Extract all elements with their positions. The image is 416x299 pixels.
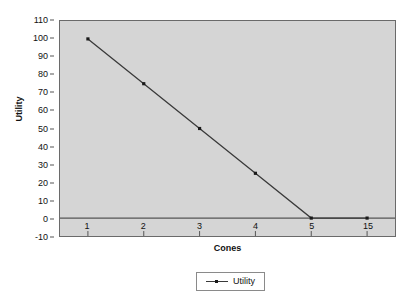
- y-axis-tick-mark: [50, 20, 54, 21]
- y-axis-tick-label: -10: [14, 233, 48, 242]
- y-axis-tick-label: 70: [14, 88, 48, 97]
- y-axis-tick-label: 50: [14, 124, 48, 133]
- x-axis-tick-label: 1: [72, 222, 102, 231]
- chart-legend: Utility: [196, 272, 265, 291]
- data-point-marker: [254, 172, 257, 175]
- y-axis-tick-label: 20: [14, 178, 48, 187]
- plot-area: [59, 20, 396, 237]
- series-utility-group: [86, 37, 368, 219]
- y-axis-tick-mark: [50, 164, 54, 165]
- x-axis-tick-label: 4: [241, 222, 271, 231]
- series-line-utility: [88, 39, 367, 218]
- legend-item-label: Utility: [233, 277, 255, 286]
- utility-vs-cones-chart: Utility 1101009080706050403020100-10 123…: [0, 0, 416, 299]
- y-axis-tick-mark: [50, 38, 54, 39]
- y-axis-tick-mark: [50, 200, 54, 201]
- x-axis-tick-label: 5: [297, 222, 327, 231]
- y-axis-tick-label: 110: [14, 16, 48, 25]
- x-axis-title: Cones: [59, 243, 396, 253]
- data-point-marker: [142, 82, 145, 85]
- data-point-marker: [86, 37, 89, 40]
- y-axis-tick-mark: [50, 110, 54, 111]
- y-axis-tick-mark: [50, 182, 54, 183]
- legend-item-utility: Utility: [206, 277, 255, 286]
- series-markers-utility: [86, 37, 368, 219]
- y-axis-tick-mark: [50, 237, 54, 238]
- y-axis-tick-label: 100: [14, 34, 48, 43]
- y-axis-tick-mark: [50, 92, 54, 93]
- y-axis-tick-mark: [50, 74, 54, 75]
- y-axis-tick-label: 30: [14, 160, 48, 169]
- data-point-marker: [310, 217, 313, 220]
- x-axis-tick-label: 3: [184, 222, 214, 231]
- x-axis-tick-label: 15: [353, 222, 383, 231]
- data-point-marker: [198, 127, 201, 130]
- y-axis-tick-label: 90: [14, 52, 48, 61]
- y-axis-tick-mark: [50, 218, 54, 219]
- y-axis-tick-mark: [50, 146, 54, 147]
- y-axis-tick-label: 80: [14, 70, 48, 79]
- y-axis-tick-mark: [50, 128, 54, 129]
- plot-canvas: [60, 21, 395, 236]
- y-axis-tick-labels: 1101009080706050403020100-10: [18, 20, 54, 237]
- y-axis-tick-label: 40: [14, 142, 48, 151]
- x-axis-tick-label: 2: [128, 222, 158, 231]
- y-axis-tick-label: 10: [14, 196, 48, 205]
- y-axis-tick-label: 0: [14, 214, 48, 223]
- y-axis-tick-mark: [50, 56, 54, 57]
- x-axis-tick-labels: 1234515: [59, 222, 396, 236]
- legend-line-marker-icon: [206, 277, 228, 286]
- data-point-marker: [365, 217, 368, 220]
- y-axis-tick-label: 60: [14, 106, 48, 115]
